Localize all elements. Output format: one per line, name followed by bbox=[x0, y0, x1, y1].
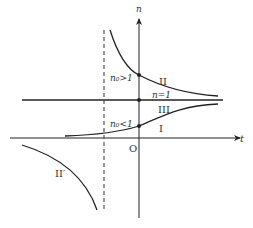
curve-i bbox=[65, 104, 218, 136]
point-n0-below bbox=[137, 124, 141, 128]
point-n0-above bbox=[137, 73, 141, 77]
curve-ii-label: II bbox=[159, 76, 167, 87]
curve-i-label: I bbox=[159, 123, 163, 134]
phase-diagram: n t O n₀>1 n₀<1 n=1 II III I II′ bbox=[0, 0, 253, 228]
point-n-equals-one bbox=[137, 98, 141, 102]
n0-less-label: n₀<1 bbox=[110, 119, 133, 129]
origin-label: O bbox=[129, 143, 137, 154]
curve-ii-prime-label: II′ bbox=[55, 168, 66, 179]
n-equals-one-label: n=1 bbox=[152, 90, 171, 100]
n-axis-label: n bbox=[136, 4, 142, 14]
curve-iii-label: III bbox=[158, 104, 170, 115]
t-axis-label: t bbox=[240, 133, 245, 144]
diagram-canvas: n t O n₀>1 n₀<1 n=1 II III I II′ bbox=[0, 0, 253, 228]
n0-greater-label: n₀>1 bbox=[110, 73, 133, 83]
